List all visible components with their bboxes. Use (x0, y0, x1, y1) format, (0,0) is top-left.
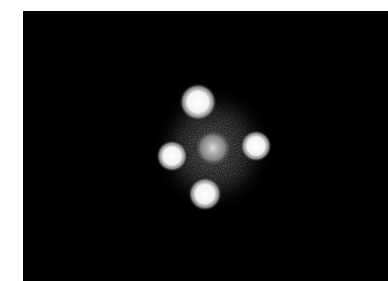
bottom-source (188, 177, 222, 211)
left-source (156, 140, 188, 172)
right-source (240, 130, 272, 162)
top-source (179, 83, 217, 121)
center-source (193, 128, 233, 168)
lens-image-graphic (23, 11, 388, 281)
astronomical-image (23, 11, 388, 281)
